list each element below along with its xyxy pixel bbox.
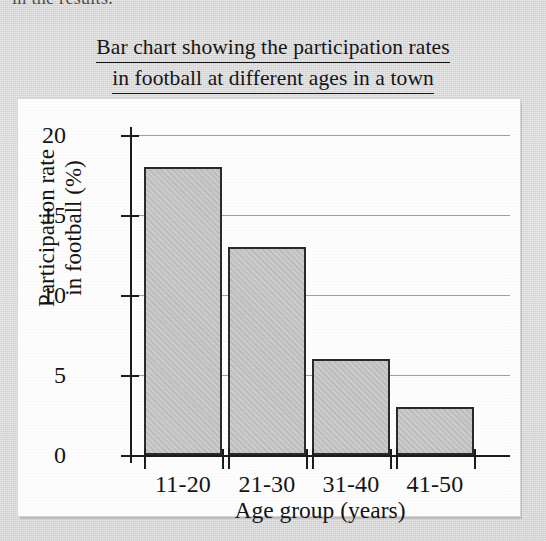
x-tick-3 [390, 449, 392, 469]
bar-41-50 [396, 407, 474, 455]
x-tick-4 [474, 449, 476, 469]
y-tick-5 [121, 375, 139, 377]
y-axis-title: Participation rate in football (%) [33, 78, 87, 378]
y-axis-title-line-2: in football (%) [60, 78, 87, 378]
bar-31-40 [312, 359, 390, 455]
y-tick-20 [121, 135, 139, 137]
x-axis-line [122, 455, 510, 457]
y-tick-10 [121, 295, 139, 297]
y-tick-label-0: 0 [6, 443, 66, 467]
y-axis-title-line-1: Participation rate [33, 78, 60, 378]
x-tick-2 [312, 449, 314, 469]
gridline-20 [130, 135, 510, 136]
x-tick-1 [228, 449, 230, 469]
bar-21-30 [228, 247, 306, 455]
x-tick-3 [396, 449, 398, 469]
figure-title-line-2: in football at different ages in a town [112, 65, 434, 94]
x-axis-title: Age group (years) [130, 497, 510, 523]
clipped-text-above-figure: in the results. [12, 0, 312, 10]
x-tick-1 [222, 449, 224, 469]
x-tick-label-41-50: 41-50 [375, 471, 495, 497]
x-tick-2 [306, 449, 308, 469]
plot-area: 05101520 11-2021-3031-4041-50 Participat… [18, 99, 520, 516]
bar-11-20 [144, 167, 222, 455]
figure-title-line-1: Bar chart showing the participation rate… [96, 34, 449, 63]
y-tick-15 [121, 215, 139, 217]
chart-panel: 05101520 11-2021-3031-4041-50 Participat… [18, 99, 520, 516]
y-tick-0 [121, 455, 139, 457]
x-tick-0 [144, 449, 146, 469]
